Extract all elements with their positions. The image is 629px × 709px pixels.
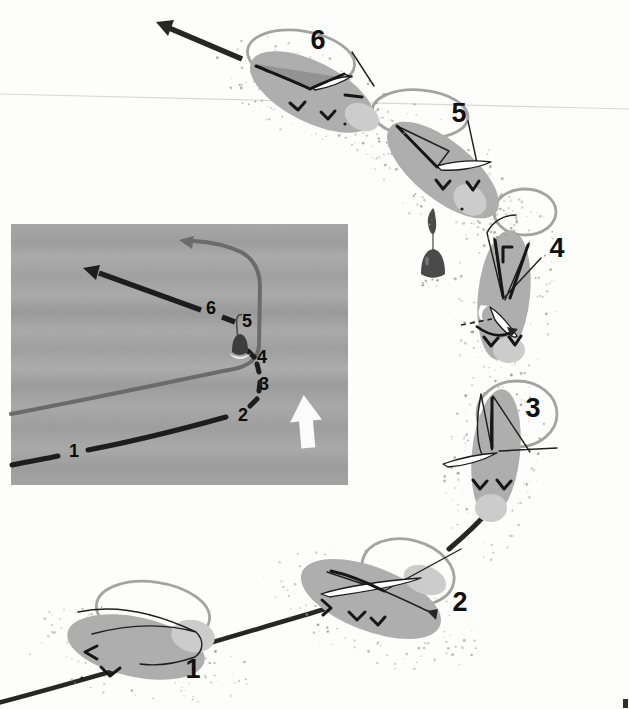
spray-dot [434, 220, 435, 221]
spray-dot [463, 639, 466, 642]
spray-dot [319, 631, 320, 632]
spray-dot [383, 93, 385, 95]
spray-dot [379, 156, 381, 158]
spray-dot [102, 691, 104, 693]
spray-dot [499, 550, 500, 551]
spray-dot [51, 624, 53, 626]
spray-dot [520, 372, 523, 375]
spray-dot [519, 502, 522, 505]
spray-dot [447, 647, 450, 650]
spray-dot [374, 645, 375, 646]
spray-dot [516, 233, 518, 235]
spray-dot [345, 137, 347, 139]
spray-dot [354, 133, 357, 136]
spray-dot [445, 641, 447, 643]
spray-dot [313, 632, 316, 635]
spray-dot [365, 134, 368, 137]
spray-dot [512, 216, 513, 217]
spray-dot [435, 598, 436, 599]
spray-dot [450, 634, 451, 635]
spray-dot [53, 632, 55, 634]
spray-dot [496, 360, 498, 362]
spray-dot [382, 117, 384, 119]
spray-dot [82, 663, 83, 664]
spray-dot [235, 682, 237, 684]
spray-dot [493, 552, 495, 554]
spray-dot [508, 534, 511, 537]
spray-dot [530, 211, 532, 213]
spray-dot [371, 168, 372, 169]
spray-dot [373, 162, 374, 163]
spray-dot [317, 623, 320, 626]
spray-dot [403, 658, 404, 659]
spray-dot [530, 323, 531, 324]
spray-dot [353, 639, 356, 642]
spray-dot [356, 149, 359, 152]
spray-dot [246, 683, 248, 685]
spray-dot [543, 457, 544, 458]
spray-dot [494, 369, 496, 371]
spray-dot [412, 198, 413, 199]
spray-dot [214, 662, 216, 664]
droplet-upper [428, 208, 436, 234]
spray-dot [338, 134, 341, 137]
spray-dot [248, 103, 250, 105]
spray-dot [488, 167, 490, 169]
spray-dot [473, 377, 474, 378]
spray-dot [89, 687, 91, 689]
spray-dot [281, 116, 283, 118]
spray-dot [311, 135, 312, 136]
spray-dot [384, 166, 385, 167]
spray-dot [471, 384, 474, 387]
spray-dot [549, 268, 552, 271]
spray-dot [445, 493, 446, 494]
spray-dot [508, 196, 510, 198]
spray-dot [458, 298, 460, 300]
escape-arrow-shaft [169, 28, 242, 59]
spray-dot [467, 512, 468, 513]
spray-dot [440, 119, 441, 120]
spray-dot [462, 222, 465, 225]
spray-dot [447, 650, 448, 651]
spray-dot [413, 667, 415, 669]
spray-dot [510, 227, 512, 229]
inset-label-3: 3 [259, 374, 269, 394]
spray-dot [324, 553, 326, 555]
spray-dot [376, 133, 378, 135]
spray-dot [479, 222, 481, 224]
spray-dot [488, 149, 490, 151]
spray-dot [331, 644, 332, 645]
creature-2-body [290, 543, 451, 656]
spray-dot [288, 595, 290, 597]
spray-dot [515, 362, 517, 364]
spray-dot [423, 647, 425, 649]
inset-label-4: 4 [257, 347, 267, 367]
spray-dot [527, 492, 528, 493]
spray-dot [193, 696, 194, 697]
spray-dot [278, 561, 281, 564]
spray-dot [395, 168, 398, 171]
spray-dot [517, 380, 519, 382]
spray-dot [43, 617, 46, 620]
spray-dot [413, 103, 415, 105]
spray-dot [245, 81, 247, 83]
sequence-label-3: 3 [525, 393, 540, 423]
spray-dot [372, 157, 374, 159]
spray-dot [521, 206, 524, 209]
spray-dot [362, 142, 365, 145]
spray-dot [67, 642, 69, 644]
spray-dot [433, 658, 435, 660]
spray-dot [472, 518, 473, 519]
spray-dot [415, 114, 417, 116]
spray-dot [514, 207, 515, 208]
spray-dot [49, 611, 51, 613]
spray-dot [487, 153, 489, 155]
spray-dot [511, 535, 513, 537]
spray-dot [229, 694, 232, 697]
spray-dot [240, 87, 243, 90]
sequence-label-4: 4 [549, 233, 564, 263]
spray-dot [473, 639, 475, 641]
spray-dot [241, 66, 244, 69]
spray-dot [466, 433, 468, 435]
spray-dot [431, 279, 433, 281]
